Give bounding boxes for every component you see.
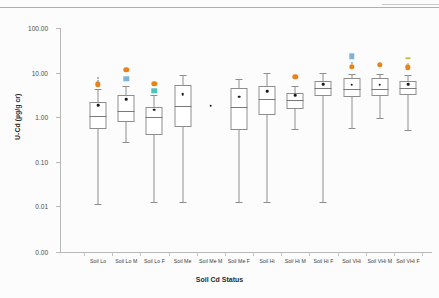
outlier-marker [152,81,157,86]
mean-marker [350,83,353,86]
x-axis-tick [140,252,141,256]
whisker-cap-lower [292,129,299,130]
whisker-lower [238,130,239,202]
whisker-cap-lower [95,204,102,205]
y-axis-tick-label: 10.00 [8,69,48,76]
y-axis-tick-label: 0.10 [8,158,48,165]
box-iqr [230,88,247,131]
whisker-cap-upper [235,79,242,80]
outlier-marker [405,65,410,70]
whisker-upper [323,73,324,82]
x-axis-tick [309,252,310,256]
whisker-cap-lower [151,202,158,203]
outlier-marker [97,80,99,82]
outlier-marker [97,77,99,79]
median-line [371,89,388,90]
x-axis-tick [112,252,113,256]
y-axis-tick [56,117,60,118]
median-line [174,106,191,107]
y-axis-tick [56,252,60,253]
y-axis-tick [56,206,60,207]
y-axis-tick-label: 0.01 [8,203,48,210]
median-line [343,89,360,90]
figure-page: 100.0010.001.000.100.010.00 Soil LoSoil … [0,0,439,298]
y-axis-title: U-Cd (µg/g cr) [14,94,21,140]
whisker-lower [379,96,380,118]
y-axis-tick [56,73,60,74]
outlier-marker [349,64,354,69]
x-axis-category-label: Soil VHi F [385,258,431,264]
x-axis-tick [394,252,395,256]
x-axis-tick [225,252,226,256]
y-axis-tick-label: 0.00 [8,249,48,256]
whisker-lower [407,95,408,131]
median-line [399,88,416,89]
x-axis-line [60,252,432,253]
whisker-cap-upper [179,75,186,76]
x-axis-tick [197,252,198,256]
outlier-marker [377,62,382,67]
whisker-cap-lower [264,202,271,203]
median-line [315,88,332,89]
mean-marker [153,109,156,112]
mean-marker [238,95,241,98]
whisker-lower [267,115,268,202]
whisker-upper [182,75,183,85]
mean-marker [181,93,184,96]
outlier-marker [95,82,100,87]
mean-marker [209,104,212,107]
outlier-marker [349,54,354,59]
whisker-cap-upper [292,86,299,87]
outlier-marker [124,67,129,72]
whisker-cap-upper [348,74,355,75]
x-axis-tick [84,252,85,256]
whisker-cap-lower [179,202,186,203]
page-top-rule-secondary [382,4,439,5]
whisker-upper [126,86,127,96]
whisker-upper [154,95,155,107]
whisker-cap-lower [404,130,411,131]
whisker-lower [98,129,99,205]
outlier-marker [351,62,353,64]
outlier-marker [293,74,298,79]
whisker-cap-lower [348,128,355,129]
whisker-upper [98,89,99,102]
whisker-upper [238,79,239,88]
whisker-lower [323,96,324,202]
whisker-cap-lower [320,202,327,203]
x-axis-tick [253,252,254,256]
y-axis-tick-label: 100.00 [8,25,48,32]
box-iqr [343,78,360,97]
outlier-marker [407,63,409,65]
whisker-cap-upper [95,89,102,90]
mean-marker [125,98,128,101]
median-line [230,107,247,108]
x-axis-tick [169,252,170,256]
whisker-cap-upper [320,73,327,74]
whisker-cap-upper [404,75,411,76]
outlier-marker [405,57,410,59]
whisker-cap-upper [264,73,271,74]
mean-marker [378,83,381,86]
whisker-upper [267,73,268,85]
whisker-cap-lower [123,142,130,143]
median-line [90,116,107,117]
boxplot-chart: 100.0010.001.000.100.010.00 Soil LoSoil … [60,28,432,252]
whisker-lower [126,122,127,142]
outlier-marker [124,76,129,81]
outlier-marker [152,88,157,93]
whisker-lower [351,97,352,128]
box-iqr [371,78,388,96]
x-axis-tick [338,252,339,256]
whisker-cap-lower [235,202,242,203]
x-axis-tick [422,252,423,256]
mean-marker [97,104,100,107]
median-line [259,99,276,100]
mean-marker [294,94,297,97]
y-axis-tick [56,28,60,29]
mean-marker [407,83,410,86]
mean-marker [322,83,325,86]
whisker-cap-lower [376,118,383,119]
whisker-lower [154,135,155,203]
x-axis-title: Soil Cd Status [0,276,439,283]
